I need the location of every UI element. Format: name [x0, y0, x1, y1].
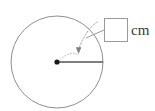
- unit-label: cm: [131, 22, 150, 38]
- diagram-canvas: [0, 0, 155, 111]
- circle-radius-figure: cm: [0, 0, 155, 111]
- center-point-dot: [54, 59, 59, 64]
- radius-answer-input[interactable]: [104, 18, 128, 42]
